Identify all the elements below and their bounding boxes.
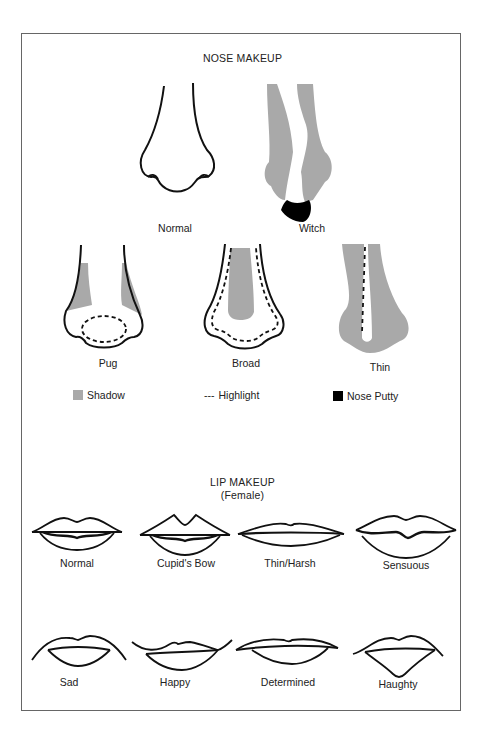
legend-shadow: Shadow <box>73 389 125 401</box>
determined-lips-figure <box>234 636 342 670</box>
sad-lips-figure <box>30 634 128 670</box>
putty-swatch-icon <box>333 391 343 401</box>
broad-nose-figure <box>202 242 292 352</box>
sad-lips-label: Sad <box>19 676 119 688</box>
cupids-bow-lips-figure <box>138 513 233 557</box>
normal-lips-figure <box>30 514 125 554</box>
cupids-bow-lips-label: Cupid's Bow <box>136 557 236 569</box>
happy-lips-figure <box>130 638 234 672</box>
legend-nose-putty-label: Nose Putty <box>347 390 398 402</box>
normal-nose-label: Normal <box>125 222 225 234</box>
sensuous-lips-figure <box>354 512 459 560</box>
dashes-icon: --- <box>204 389 215 401</box>
nose-makeup-title: NOSE MAKEUP <box>0 52 485 64</box>
shadow-swatch-icon <box>73 390 83 400</box>
thin-harsh-lips-label: Thin/Harsh <box>240 557 340 569</box>
lip-makeup-title: LIP MAKEUP <box>0 476 485 488</box>
determined-lips-label: Determined <box>238 676 338 688</box>
pug-nose-figure <box>62 243 152 348</box>
normal-lips-label: Normal <box>27 557 127 569</box>
legend-highlight-label: Highlight <box>219 389 260 401</box>
witch-nose-label: Witch <box>262 222 362 234</box>
legend-nose-putty: Nose Putty <box>333 390 398 402</box>
normal-nose-figure <box>135 80 225 200</box>
sensuous-lips-label: Sensuous <box>356 559 456 571</box>
pug-nose-label: Pug <box>58 357 158 369</box>
lip-makeup-subtitle: (Female) <box>0 489 485 501</box>
thin-nose-label: Thin <box>330 361 430 373</box>
haughty-lips-label: Haughty <box>348 678 448 690</box>
broad-nose-label: Broad <box>196 357 296 369</box>
legend-highlight: --- Highlight <box>204 389 259 401</box>
legend-shadow-label: Shadow <box>87 389 125 401</box>
thin-nose-figure <box>340 243 420 353</box>
thin-harsh-lips-figure <box>236 520 346 550</box>
witch-nose-figure <box>265 82 355 222</box>
haughty-lips-figure <box>351 634 447 682</box>
happy-lips-label: Happy <box>125 676 225 688</box>
